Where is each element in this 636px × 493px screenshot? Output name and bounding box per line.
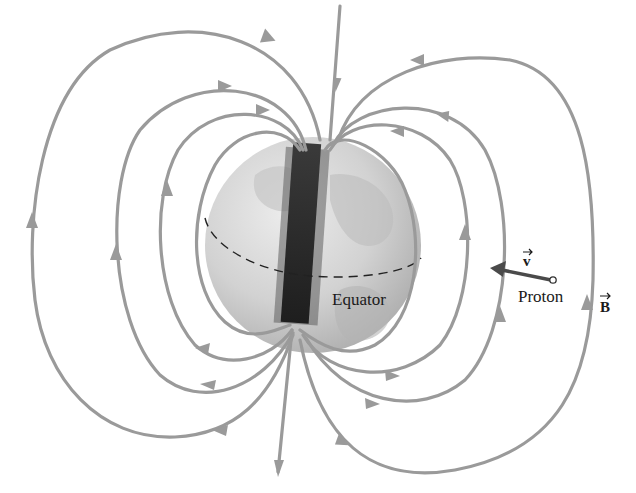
arrowhead-icon: [26, 212, 38, 228]
equator-label: Equator: [332, 290, 386, 309]
velocity-symbol: v: [523, 253, 531, 269]
diagram-svg: Equator Proton v B: [0, 0, 636, 493]
arrowhead-icon: [435, 108, 451, 122]
arrowhead-icon: [200, 380, 216, 390]
arrowhead-icon: [365, 398, 380, 409]
proton-label: Proton: [518, 287, 564, 306]
field-line-top-center: [330, 6, 340, 140]
arrowhead-icon: [260, 28, 278, 47]
field-symbol: B: [600, 299, 610, 315]
arrowhead-icon: [459, 224, 471, 240]
arrowhead-icon: [274, 460, 284, 477]
arrowhead-icon: [110, 244, 122, 260]
proton-dot: [550, 277, 556, 283]
velocity-arrow-shaft: [502, 270, 551, 280]
magnetic-field-diagram: Equator Proton v B: [0, 0, 636, 493]
velocity-label: v: [523, 249, 532, 269]
field-label: B: [600, 293, 610, 315]
arrowhead-icon: [410, 54, 424, 66]
arrowhead-icon: [256, 104, 270, 116]
arrowhead-icon: [161, 180, 173, 196]
